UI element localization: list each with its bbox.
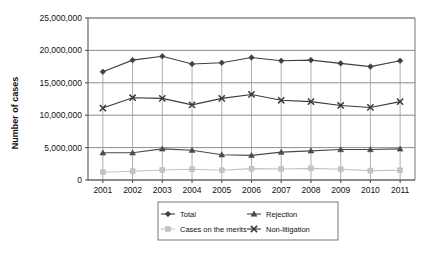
- y-tick-label: 0: [77, 175, 82, 185]
- legend-label: Non-litigation: [266, 225, 310, 234]
- data-point-marker: [338, 167, 343, 172]
- legend-box: [158, 202, 338, 240]
- data-point-marker: [190, 167, 195, 172]
- chart-container: Number of cases 05,000,00010,000,00015,0…: [0, 0, 431, 256]
- x-tick-label: 2006: [242, 185, 261, 195]
- y-tick-label: 25,000,000: [39, 13, 82, 23]
- chart-legend: TotalRejectionCases on the meritsNon-lit…: [158, 202, 338, 240]
- x-axis-tick-labels: 2001200220032004200520062007200820092010…: [93, 180, 409, 195]
- data-point-marker: [397, 58, 403, 64]
- x-tick-label: 2001: [93, 185, 112, 195]
- data-point-marker: [398, 168, 403, 173]
- data-point-marker: [100, 69, 106, 75]
- data-point-marker: [160, 53, 166, 59]
- x-tick-label: 2011: [391, 185, 410, 195]
- data-point-marker: [338, 61, 344, 67]
- data-point-marker: [166, 227, 171, 232]
- data-point-marker: [160, 167, 165, 172]
- data-point-marker: [219, 168, 224, 173]
- x-tick-label: 2002: [123, 185, 142, 195]
- y-tick-label: 10,000,000: [39, 110, 82, 120]
- y-tick-label: 20,000,000: [39, 45, 82, 55]
- data-point-marker: [130, 57, 136, 63]
- x-tick-label: 2004: [183, 185, 202, 195]
- data-point-marker: [249, 166, 254, 171]
- y-tick-label: 15,000,000: [39, 78, 82, 88]
- legend-label: Total: [180, 210, 196, 219]
- x-tick-label: 2007: [272, 185, 291, 195]
- x-tick-label: 2003: [153, 185, 172, 195]
- data-point-marker: [219, 60, 225, 66]
- x-tick-label: 2005: [212, 185, 231, 195]
- data-point-marker: [308, 166, 313, 171]
- data-point-marker: [249, 55, 255, 61]
- legend-label: Rejection: [266, 210, 297, 219]
- data-point-marker: [278, 58, 284, 64]
- data-point-marker: [189, 61, 195, 67]
- y-tick-label: 5,000,000: [44, 143, 82, 153]
- data-point-marker: [100, 170, 105, 175]
- data-point-marker: [308, 57, 314, 63]
- data-point-marker: [279, 166, 284, 171]
- data-point-marker: [368, 64, 374, 70]
- x-tick-label: 2008: [301, 185, 320, 195]
- legend-label: Cases on the merits: [180, 225, 247, 234]
- line-chart: Number of cases 05,000,00010,000,00015,0…: [0, 0, 431, 256]
- x-tick-label: 2009: [331, 185, 350, 195]
- droplines: [103, 56, 400, 180]
- y-axis-tick-labels: 05,000,00010,000,00015,000,00020,000,000…: [39, 13, 88, 185]
- data-point-marker: [130, 169, 135, 174]
- x-tick-label: 2010: [361, 185, 380, 195]
- y-axis-title: Number of cases: [10, 77, 20, 150]
- data-point-marker: [368, 168, 373, 173]
